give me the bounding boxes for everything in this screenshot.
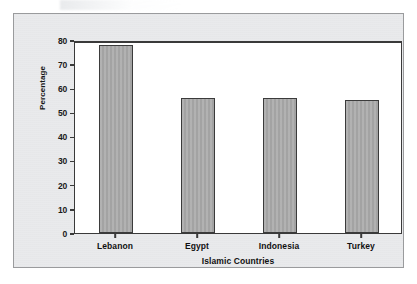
y-axis-tick-mark <box>70 64 74 65</box>
x-axis-tick-label: Egypt <box>185 241 209 251</box>
y-axis-tick-mark <box>70 137 74 138</box>
x-axis-tick-mark <box>114 234 116 238</box>
plot-area <box>74 41 402 234</box>
y-axis: 01020304050607080 <box>14 14 74 267</box>
bar <box>181 98 215 233</box>
y-axis-tick-label: 30 <box>58 157 70 166</box>
x-axis-tick-mark <box>360 234 362 238</box>
y-axis-tick-label: 20 <box>58 182 70 191</box>
y-axis-tick-mark <box>70 113 74 114</box>
y-axis-tick-label: 50 <box>58 109 70 118</box>
y-axis-tick-label: 0 <box>62 230 70 239</box>
x-axis-tick-mark <box>196 234 198 238</box>
y-axis-tick-mark <box>70 161 74 162</box>
y-axis-tick-label: 70 <box>58 61 70 70</box>
bars-layer <box>75 43 401 233</box>
x-axis-tick-mark <box>278 234 280 238</box>
bar <box>263 98 297 233</box>
x-axis-tick-label: Turkey <box>347 241 375 251</box>
bar <box>99 45 133 233</box>
x-axis: Islamic Countries LebanonEgyptIndonesiaT… <box>74 234 402 274</box>
y-axis-tick-mark <box>70 40 74 41</box>
y-axis-tick-label: 40 <box>58 133 70 142</box>
y-axis-tick-mark <box>70 89 74 90</box>
y-axis-tick-label: 10 <box>58 206 70 215</box>
y-axis-tick-mark <box>70 185 74 186</box>
y-axis-tick-mark <box>70 209 74 210</box>
bar <box>345 100 379 233</box>
y-axis-tick-label: 60 <box>58 85 70 94</box>
chart-figure-panel: Percentage 01020304050607080 Islamic Cou… <box>13 13 404 268</box>
y-axis-tick-label: 80 <box>58 37 70 46</box>
x-axis-title: Islamic Countries <box>202 256 275 266</box>
x-axis-tick-label: Indonesia <box>259 241 300 251</box>
x-axis-tick-label: Lebanon <box>97 241 133 251</box>
scan-artifact <box>60 0 180 10</box>
